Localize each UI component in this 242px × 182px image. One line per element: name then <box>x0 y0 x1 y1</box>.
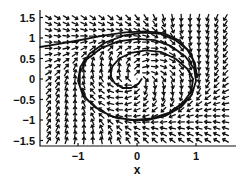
field-arrow-icon <box>162 21 165 27</box>
field-arrow-icon <box>81 34 87 37</box>
field-arrow-icon <box>74 125 77 131</box>
field-arrow-icon <box>215 64 219 70</box>
field-arrow-icon <box>72 52 77 56</box>
field-arrow-icon <box>144 77 149 82</box>
field-arrow-icon <box>65 125 68 131</box>
field-arrow-icon <box>134 126 140 129</box>
field-arrow-icon <box>205 139 210 143</box>
field-arrow-icon <box>91 70 94 76</box>
field-arrow-icon <box>73 82 76 88</box>
y-tick-label: 0.5 <box>20 53 35 65</box>
field-arrow-icon <box>223 90 229 93</box>
field-arrow-icon <box>134 115 140 118</box>
field-arrow-icon <box>223 96 229 99</box>
field-arrow-icon <box>170 115 176 118</box>
field-arrow-icon <box>91 89 95 94</box>
field-arrow-icon <box>135 59 140 63</box>
field-arrow-icon <box>65 107 68 113</box>
field-arrow-icon <box>162 101 166 107</box>
field-arrow-icon <box>82 70 85 76</box>
field-arrow-icon <box>125 108 131 111</box>
field-arrow-icon <box>215 45 218 51</box>
field-arrow-icon <box>55 71 60 76</box>
y-tick-label: 1.5 <box>20 12 35 24</box>
field-arrow-icon <box>161 139 166 143</box>
field-arrow-icon <box>65 131 68 137</box>
phase-portrait-chart: −101 1.510.50−0.5−1−1.5 x <box>0 0 242 182</box>
field-arrow-icon <box>135 89 140 93</box>
field-arrow-icon <box>143 71 149 74</box>
field-arrow-icon <box>170 40 175 44</box>
field-arrow-icon <box>143 41 149 44</box>
field-arrow-icon <box>196 115 202 118</box>
field-arrow-icon <box>206 39 209 45</box>
field-arrow-icon <box>46 77 51 81</box>
field-arrow-icon <box>56 113 59 119</box>
field-arrow-icon <box>224 15 228 21</box>
field-arrow-icon <box>196 102 201 106</box>
field-arrow-icon <box>99 96 105 100</box>
field-arrow-icon <box>91 64 94 70</box>
field-arrow-icon <box>214 120 220 123</box>
field-arrow-icon <box>100 52 104 58</box>
field-arrow-icon <box>73 100 76 106</box>
field-arrow-icon <box>206 70 209 76</box>
x-tick-label: −1 <box>72 150 85 162</box>
field-arrow-icon <box>197 27 200 33</box>
field-arrow-icon <box>214 102 220 105</box>
field-arrow-icon <box>109 132 112 138</box>
field-arrow-icon <box>54 53 60 56</box>
field-arrow-icon <box>116 96 122 99</box>
field-arrow-icon <box>144 95 148 100</box>
field-arrow-icon <box>91 131 94 137</box>
field-arrow-icon <box>65 88 68 94</box>
field-arrow-icon <box>117 70 120 76</box>
field-arrow-icon <box>90 16 95 20</box>
field-arrow-icon <box>206 64 209 70</box>
field-arrow-icon <box>143 121 149 124</box>
field-arrow-icon <box>222 120 228 123</box>
field-arrow-icon <box>63 22 69 25</box>
field-arrow-icon <box>152 59 158 62</box>
field-arrow-icon <box>45 35 51 38</box>
y-axis-ticks: 1.510.50−0.5−1−1.5 <box>13 12 43 147</box>
field-arrow-icon <box>215 58 218 64</box>
field-arrow-icon <box>143 53 149 56</box>
x-tick-label: 1 <box>193 150 199 162</box>
field-arrow-icon <box>116 120 122 123</box>
field-arrow-icon <box>82 119 85 125</box>
field-arrow-icon <box>161 66 167 69</box>
field-arrow-icon <box>170 132 176 135</box>
field-arrow-icon <box>224 39 228 44</box>
field-arrow-icon <box>46 29 52 32</box>
field-arrow-icon <box>47 107 51 112</box>
field-arrow-icon <box>197 33 200 39</box>
field-arrow-icon <box>46 71 51 75</box>
field-arrow-icon <box>169 121 175 124</box>
field-arrow-icon <box>56 107 59 113</box>
field-arrow-icon <box>196 109 202 112</box>
field-arrow-icon <box>117 132 121 137</box>
field-arrow-icon <box>162 15 165 21</box>
field-arrow-icon <box>126 77 130 82</box>
field-arrow-icon <box>143 65 149 68</box>
field-arrow-icon <box>116 29 122 32</box>
field-arrow-icon <box>125 96 131 99</box>
field-arrow-icon <box>144 82 147 88</box>
field-arrow-icon <box>81 40 87 43</box>
field-arrow-icon <box>215 33 218 39</box>
field-arrow-icon <box>214 96 220 99</box>
field-arrow-icon <box>74 76 77 82</box>
field-arrow-icon <box>224 33 228 39</box>
field-arrow-icon <box>223 83 228 87</box>
field-arrow-icon <box>224 21 228 27</box>
x-axis-label: x <box>134 163 141 177</box>
field-arrow-icon <box>135 96 140 100</box>
field-arrow-icon <box>90 29 96 32</box>
field-arrow-icon <box>91 83 95 88</box>
field-arrow-icon <box>224 46 228 51</box>
field-arrow-icon <box>205 120 211 123</box>
field-arrow-icon <box>90 40 96 43</box>
field-arrow-icon <box>153 77 157 82</box>
field-arrow-icon <box>170 101 174 107</box>
